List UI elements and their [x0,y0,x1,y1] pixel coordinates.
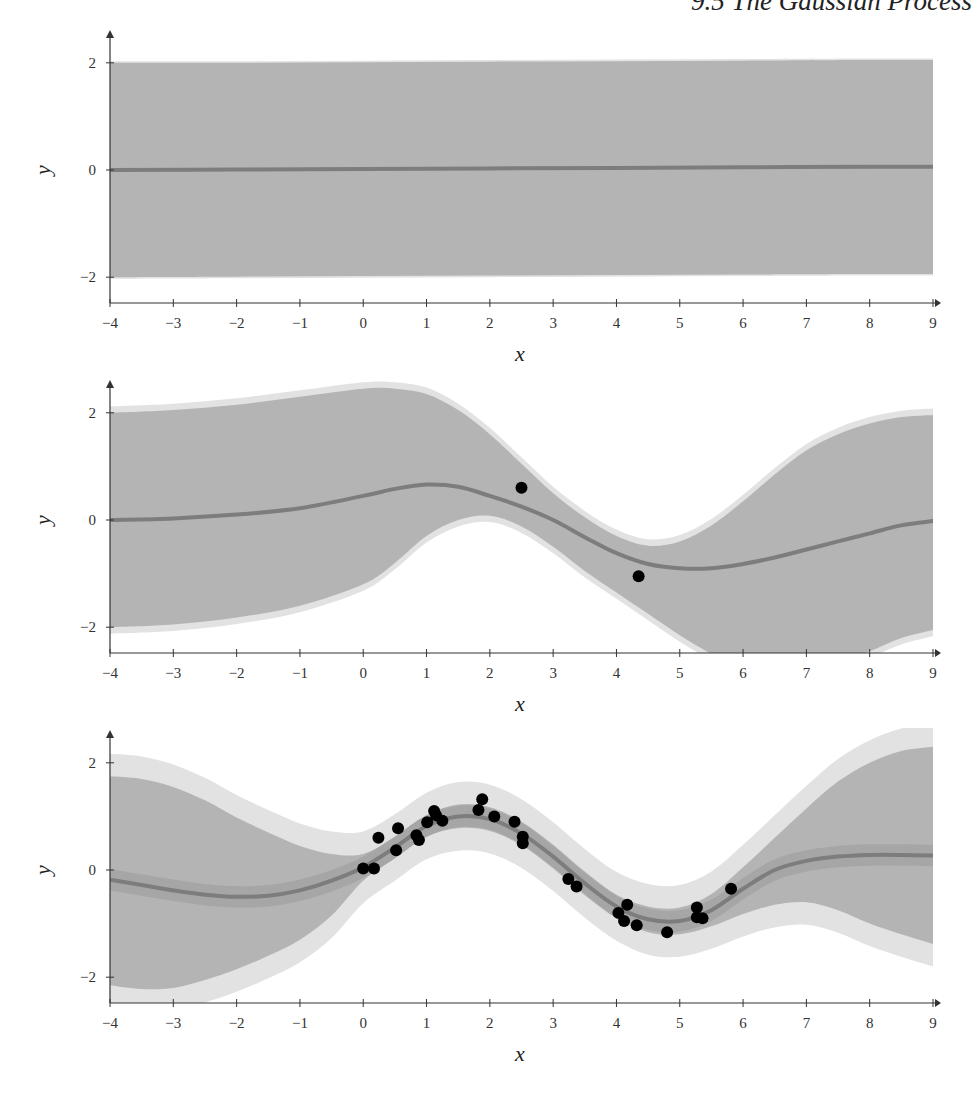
x-tick-label: −4 [102,665,118,681]
observation-point [509,816,521,828]
observation-point [517,837,529,849]
x-tick-label: −1 [292,315,308,331]
observation-point [488,810,500,822]
x-tick-label: 8 [866,315,874,331]
x-tick-label: −2 [229,315,245,331]
x-axis-title: x [514,1041,525,1066]
x-tick-label: −1 [292,665,308,681]
chart-panel-posterior-many: −4−3−2−10123456789−202xy [0,728,972,1073]
observation-point [633,570,645,582]
observation-point [571,881,583,893]
y-tick-label: 0 [89,162,97,178]
chart-svg: −4−3−2−10123456789−202xy [0,728,972,1073]
observation-point [725,883,737,895]
x-tick-label: 2 [486,665,494,681]
observation-point [390,844,402,856]
observation-point [631,919,643,931]
observation-point [516,482,528,494]
x-tick-label: −3 [165,665,181,681]
observation-point [413,834,425,846]
x-tick-label: 1 [423,1015,431,1031]
y-axis-arrow-icon [106,380,114,388]
x-tick-label: 6 [739,1015,747,1031]
y-tick-label: 2 [89,55,97,71]
plot-area [110,728,933,1012]
y-axis-title: y [30,865,55,877]
observation-point [618,915,630,927]
y-axis-arrow-icon [106,730,114,738]
x-axis-arrow-icon [935,999,941,1007]
x-tick-label: 9 [929,1015,937,1031]
x-tick-label: −1 [292,1015,308,1031]
x-tick-label: −4 [102,1015,118,1031]
y-tick-label: 0 [89,512,97,528]
observation-point [392,822,404,834]
x-tick-label: 8 [866,665,874,681]
x-tick-label: 5 [676,665,684,681]
chart-svg: −4−3−2−10123456789−202xy [0,378,972,723]
x-tick-label: 7 [803,665,811,681]
observation-point [436,815,448,827]
x-tick-label: 5 [676,315,684,331]
confidence-band-inner [110,388,933,679]
x-tick-label: 2 [486,1015,494,1031]
x-tick-label: 9 [929,315,937,331]
chart-svg: −4−3−2−10123456789−202xy [0,28,972,373]
x-tick-label: 3 [549,1015,557,1031]
observation-point [661,926,673,938]
y-tick-label: −2 [80,619,96,635]
x-tick-label: 7 [803,315,811,331]
y-axis-title: y [30,515,55,527]
plot-area [110,381,933,684]
x-tick-label: −3 [165,1015,181,1031]
y-tick-label: 0 [89,862,97,878]
x-tick-label: 9 [929,665,937,681]
x-tick-label: 1 [423,665,431,681]
observation-point [472,804,484,816]
x-tick-label: 5 [676,1015,684,1031]
x-tick-label: −2 [229,665,245,681]
x-tick-label: 0 [359,665,367,681]
x-tick-label: 6 [739,315,747,331]
x-tick-label: 4 [613,665,621,681]
y-axis-title: y [30,165,55,177]
y-tick-label: 2 [89,405,97,421]
y-tick-label: −2 [80,969,96,985]
x-tick-label: 7 [803,1015,811,1031]
running-head: 9.5 The Gaussian Process [691,0,972,17]
x-tick-label: 0 [359,1015,367,1031]
x-tick-label: 3 [549,315,557,331]
observation-point [476,793,488,805]
plot-area [110,58,933,278]
x-axis-arrow-icon [935,649,941,657]
x-tick-label: −3 [165,315,181,331]
x-tick-label: 0 [359,315,367,331]
x-tick-label: 1 [423,315,431,331]
observation-point [368,862,380,874]
chart-panel-prior: −4−3−2−10123456789−202xy [0,28,972,373]
observation-point [357,862,369,874]
chart-panel-posterior-2pts: −4−3−2−10123456789−202xy [0,378,972,723]
x-axis-arrow-icon [935,299,941,307]
x-tick-label: 4 [613,1015,621,1031]
x-tick-label: −4 [102,315,118,331]
x-tick-label: −2 [229,1015,245,1031]
x-axis-title: x [514,691,525,716]
y-tick-label: 2 [89,755,97,771]
observation-point [372,832,384,844]
observation-point [621,899,633,911]
x-tick-label: 2 [486,315,494,331]
y-axis-arrow-icon [106,30,114,38]
x-axis-title: x [514,341,525,366]
x-tick-label: 3 [549,665,557,681]
x-tick-label: 8 [866,1015,874,1031]
observation-point [697,912,709,924]
x-tick-label: 4 [613,315,621,331]
y-tick-label: −2 [80,269,96,285]
x-tick-label: 6 [739,665,747,681]
